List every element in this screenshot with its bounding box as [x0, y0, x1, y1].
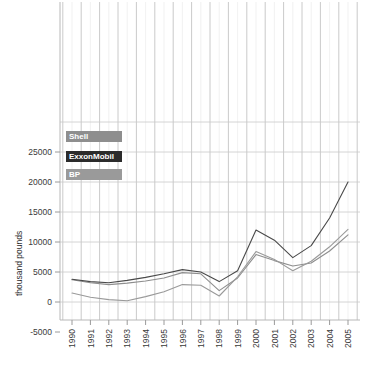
y-axis-tick-label: 0: [47, 297, 52, 307]
legend-label: Shell: [69, 132, 88, 141]
x-axis-tick-label: 1994: [141, 329, 151, 348]
y-axis-tick-label: 25000: [28, 147, 52, 157]
chart-container: 2500020000150001000050000-5000 199019911…: [0, 0, 375, 376]
x-axis-tick-label: 1995: [159, 329, 169, 348]
x-axis-tick-label: 1996: [178, 329, 188, 348]
line-chart: 2500020000150001000050000-5000 199019911…: [0, 0, 375, 376]
legend-item-bp[interactable]: BP: [66, 169, 122, 180]
x-axis-tick-label: 2004: [325, 329, 335, 348]
y-axis-tick-label: 15000: [28, 207, 52, 217]
legend-label: ExxonMobil: [69, 152, 114, 161]
x-axis-tick-label: 2005: [343, 329, 353, 348]
chart-legend: ShellExxonMobilBP: [66, 131, 122, 180]
x-axis-tick-label: 1998: [214, 329, 224, 348]
legend-item-shell[interactable]: Shell: [66, 131, 122, 142]
y-axis-tick-label: 10000: [28, 237, 52, 247]
legend-item-exxonmobil[interactable]: ExxonMobil: [66, 151, 122, 162]
y-axis-tick-label: -5000: [30, 327, 52, 337]
x-axis-tick-label: 1993: [122, 329, 132, 348]
x-axis-tick-label: 2002: [288, 329, 298, 348]
legend-label: BP: [69, 170, 81, 179]
x-axis-tick-label: 1990: [67, 329, 77, 348]
x-axis-tick-label: 2000: [251, 329, 261, 348]
x-axis-tick-label: 2003: [306, 329, 316, 348]
y-axis-title: thousand pounds: [14, 231, 24, 296]
x-axis-tick-label: 1991: [86, 329, 96, 348]
x-axis-tick-label: 1992: [104, 329, 114, 348]
x-axis-tick-label: 1999: [233, 329, 243, 348]
y-axis-tick-label: 5000: [33, 267, 52, 277]
x-axis-tick-label: 2001: [270, 329, 280, 348]
x-axis-tick-label: 1997: [196, 329, 206, 348]
y-axis-tick-label: 20000: [28, 177, 52, 187]
